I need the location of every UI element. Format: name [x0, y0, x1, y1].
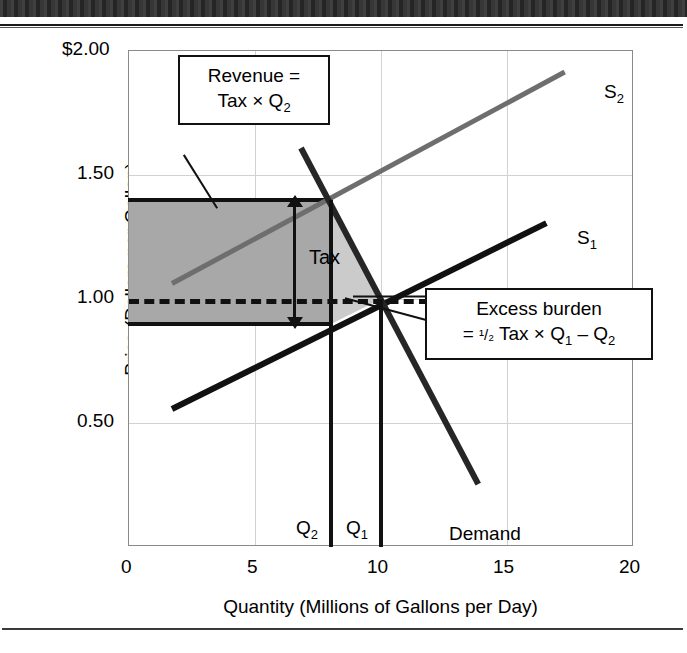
- q1-label: Q1: [346, 517, 368, 542]
- revenue-callout-line1: Revenue =: [190, 64, 318, 89]
- q2-label: Q2: [296, 517, 318, 542]
- tax-arrow-head-up: [287, 195, 303, 207]
- x-tick-10: 10: [367, 556, 388, 578]
- tax-double-arrow: [293, 206, 296, 318]
- q2-label-subscript: 2: [311, 527, 318, 542]
- x-tick-15: 15: [493, 556, 514, 578]
- tax-arrow-head-down: [287, 317, 303, 329]
- excess-burden-callout-line2: = ¹/₂ Tax × Q1 – Q2: [437, 322, 641, 350]
- q1-label-letter: Q: [346, 517, 361, 538]
- revenue-callout-box: Revenue = Tax × Q2: [178, 55, 330, 125]
- x-tick-20: 20: [619, 556, 640, 578]
- s1-label: S1: [577, 227, 597, 252]
- excess-burden-tax-q: Tax × Q: [494, 323, 565, 344]
- x-tick-5: 5: [247, 556, 258, 578]
- excess-burden-eq: =: [463, 323, 479, 344]
- s2-label: S2: [604, 81, 624, 106]
- s2-label-subscript: 2: [617, 91, 624, 106]
- s1-label-subscript: 1: [590, 237, 597, 252]
- tax-incidence-figure: $2.00 1.50 1.00 0.50 Price (Dollars per …: [0, 30, 687, 625]
- y-tick-1-50: 1.50: [77, 162, 114, 184]
- q1-label-subscript: 1: [361, 527, 368, 542]
- s2-label-letter: S: [604, 81, 617, 102]
- q1-vertical-line: [379, 299, 383, 547]
- excess-burden-callout-line1: Excess burden: [437, 297, 641, 322]
- demand-label: Demand: [449, 523, 521, 545]
- s1-label-letter: S: [577, 227, 590, 248]
- y-tick-2-00: $2.00: [62, 38, 110, 60]
- bottom-horizontal-rule: [2, 628, 683, 630]
- x-axis-label: Quantity (Millions of Gallons per Day): [128, 596, 633, 618]
- revenue-callout-line2-text: Tax × Q: [217, 90, 283, 111]
- excess-burden-minus-q: – Q: [572, 323, 608, 344]
- scanned-page-header-bar: [0, 0, 687, 17]
- tax-label-text: Tax: [309, 246, 340, 268]
- revenue-callout-line2-subscript: 2: [283, 99, 290, 114]
- dashed-price-line: [129, 299, 429, 304]
- excess-burden-callout-box: Excess burden = ¹/₂ Tax × Q1 – Q2: [425, 288, 653, 360]
- revenue-callout-line2: Tax × Q2: [190, 89, 318, 117]
- top-horizontal-rule: [0, 24, 683, 26]
- excess-burden-leader-line-upper: [353, 296, 428, 298]
- excess-burden-one-half: ¹/₂: [479, 326, 494, 343]
- excess-burden-sub-2: 2: [608, 332, 615, 347]
- x-tick-0: 0: [121, 556, 132, 578]
- tax-label: Tax: [309, 246, 340, 269]
- y-tick-1-00: 1.00: [77, 286, 114, 308]
- top-horizontal-rule-thin: [0, 27, 683, 28]
- y-tick-0-50: 0.50: [77, 410, 114, 432]
- q2-label-letter: Q: [296, 517, 311, 538]
